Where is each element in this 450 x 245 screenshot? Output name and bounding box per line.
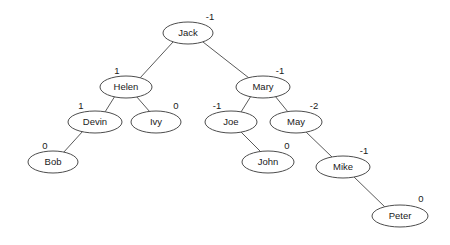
- balance-factor-mary: -1: [276, 65, 284, 76]
- tree-nodes: Jack-1Helen1Mary-1Devin1Ivy0Joe-1May-2Bo…: [28, 11, 428, 227]
- balance-factor-peter: 0: [418, 193, 423, 204]
- tree-node-john[interactable]: John0: [242, 140, 294, 173]
- tree-canvas: Jack-1Helen1Mary-1Devin1Ivy0Joe-1May-2Bo…: [0, 0, 450, 245]
- tree-edge-jack-helen: [140, 42, 173, 78]
- node-label-ivy: Ivy: [150, 116, 162, 127]
- tree-edge-joe-john: [240, 131, 261, 152]
- node-label-helen: Helen: [114, 81, 139, 92]
- tree-edge-helen-devin: [105, 96, 115, 112]
- avl-tree-diagram: Jack-1Helen1Mary-1Devin1Ivy0Joe-1May-2Bo…: [0, 0, 450, 245]
- tree-edge-mary-may: [275, 96, 288, 112]
- node-label-jack: Jack: [178, 27, 198, 38]
- node-label-mary: Mary: [252, 81, 273, 92]
- tree-edge-devin-bob: [63, 131, 83, 153]
- node-label-peter: Peter: [389, 210, 412, 221]
- balance-factor-jack: -1: [206, 11, 214, 22]
- tree-node-joe[interactable]: Joe-1: [205, 100, 257, 133]
- balance-factor-mike: -1: [360, 145, 368, 156]
- balance-factor-bob: 0: [42, 140, 47, 151]
- tree-node-mary[interactable]: Mary-1: [236, 65, 290, 98]
- tree-edge-may-mike: [305, 131, 332, 157]
- tree-edge-jack-mary: [203, 42, 249, 78]
- balance-factor-john: 0: [284, 140, 289, 151]
- node-label-mike: Mike: [333, 161, 353, 172]
- tree-node-devin[interactable]: Devin1: [68, 100, 122, 133]
- node-label-devin: Devin: [83, 116, 107, 127]
- tree-node-jack[interactable]: Jack-1: [163, 11, 214, 44]
- node-label-john: John: [258, 156, 279, 167]
- tree-node-peter[interactable]: Peter0: [372, 193, 428, 227]
- tree-node-helen[interactable]: Helen1: [100, 65, 152, 98]
- tree-edge-mary-joe: [241, 96, 251, 112]
- node-label-joe: Joe: [223, 116, 238, 127]
- balance-factor-devin: 1: [78, 100, 83, 111]
- tree-node-may[interactable]: May-2: [270, 100, 322, 133]
- tree-edge-mike-peter: [353, 176, 386, 208]
- balance-factor-joe: -1: [213, 100, 221, 111]
- tree-node-ivy[interactable]: Ivy0: [131, 100, 181, 133]
- tree-edge-helen-ivy: [136, 96, 150, 112]
- balance-factor-helen: 1: [114, 65, 119, 76]
- node-label-bob: Bob: [45, 156, 62, 167]
- balance-factor-ivy: 0: [173, 100, 178, 111]
- balance-factor-may: -2: [310, 100, 318, 111]
- node-label-may: May: [287, 116, 305, 127]
